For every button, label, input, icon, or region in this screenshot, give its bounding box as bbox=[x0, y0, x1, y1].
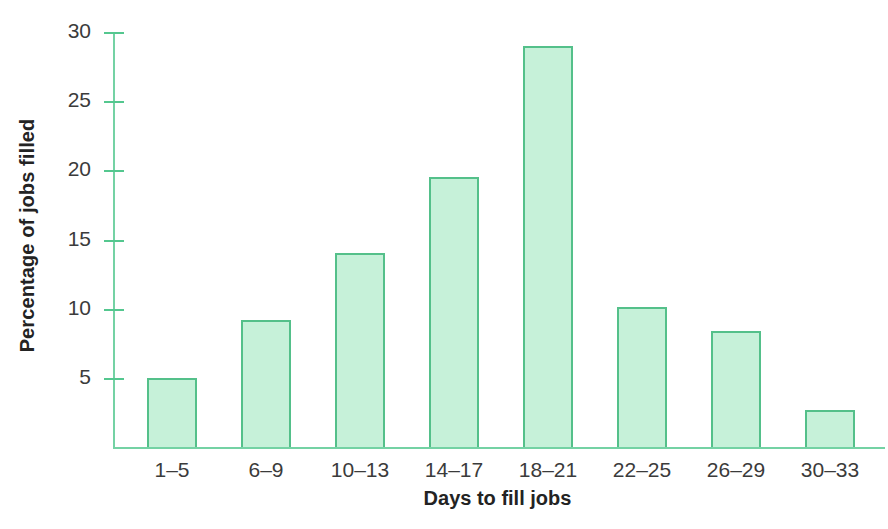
bar bbox=[711, 331, 761, 447]
y-axis-title-label: Percentage of jobs filled bbox=[17, 118, 40, 352]
y-axis-tick: 20 bbox=[104, 170, 124, 172]
y-axis-tick-label: 25 bbox=[68, 89, 91, 111]
y-axis-tick-label: 10 bbox=[68, 297, 91, 319]
bar bbox=[147, 378, 197, 447]
bar bbox=[335, 253, 385, 447]
x-axis-tick-label: 10–13 bbox=[310, 458, 410, 482]
y-axis-tick: 30 bbox=[104, 32, 124, 34]
x-axis-title-label: Days to fill jobs bbox=[424, 487, 572, 509]
bar bbox=[523, 46, 573, 447]
plot-area: 51015202530 1–56–910–1314–1718–2122–2526… bbox=[113, 32, 885, 449]
y-axis-tick-label: 30 bbox=[68, 20, 91, 42]
x-axis-tick-label: 6–9 bbox=[216, 458, 316, 482]
x-axis-tick-label: 18–21 bbox=[498, 458, 598, 482]
x-axis-tick-label: 14–17 bbox=[404, 458, 504, 482]
x-axis-tick-label: 26–29 bbox=[686, 458, 786, 482]
y-axis-tick: 10 bbox=[104, 309, 124, 311]
y-axis-tick-label: 15 bbox=[68, 228, 91, 250]
y-axis-tick-label: 20 bbox=[68, 158, 91, 180]
y-axis-title: Percentage of jobs filled bbox=[0, 0, 56, 470]
x-axis-line bbox=[113, 447, 885, 449]
y-axis-tick: 25 bbox=[104, 101, 124, 103]
bar bbox=[241, 320, 291, 447]
bar bbox=[617, 307, 667, 447]
y-axis-tick: 15 bbox=[104, 240, 124, 242]
x-axis-tick-label: 30–33 bbox=[780, 458, 880, 482]
x-axis-tick-label: 1–5 bbox=[122, 458, 222, 482]
y-axis-tick-label: 5 bbox=[79, 366, 91, 388]
bar bbox=[429, 177, 479, 447]
x-axis-tick-label: 22–25 bbox=[592, 458, 692, 482]
histogram-figure: Percentage of jobs filled 51015202530 1–… bbox=[0, 0, 888, 529]
y-axis-tick: 5 bbox=[104, 378, 124, 380]
bar bbox=[805, 410, 855, 447]
x-axis-title: Days to fill jobs bbox=[110, 487, 885, 510]
